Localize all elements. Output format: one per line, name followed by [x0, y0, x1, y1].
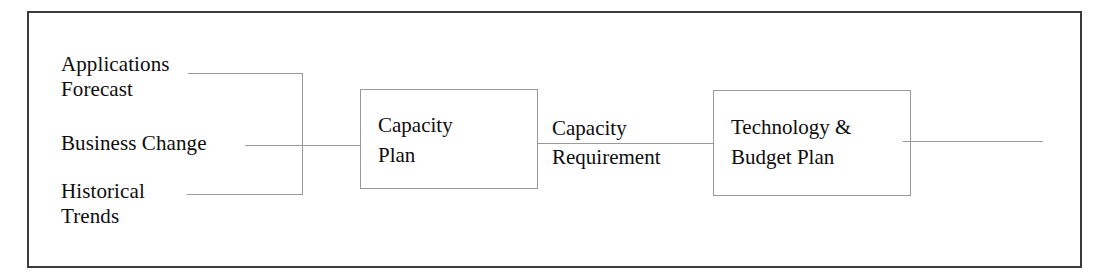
process-label-capacity-plan: Capacity Plan	[378, 110, 453, 170]
input-label-historical-trends: Historical Trends	[61, 179, 145, 229]
input-label-applications-forecast: Applications Forecast	[61, 52, 170, 102]
connector-line-applications-forecast	[188, 73, 303, 74]
connector-line-output	[903, 141, 1043, 142]
input-label-business-change: Business Change	[61, 131, 207, 156]
connector-line-business-change-to-capacity-plan	[245, 145, 361, 146]
connector-bracket-vertical	[302, 73, 303, 195]
process-label-technology-budget-plan: Technology & Budget Plan	[731, 112, 851, 172]
connector-line-historical-trends	[187, 194, 303, 195]
diagram-canvas: Applications Forecast Business Change Hi…	[0, 0, 1104, 280]
connector-label-capacity-requirement: Capacity Requirement	[552, 114, 660, 172]
